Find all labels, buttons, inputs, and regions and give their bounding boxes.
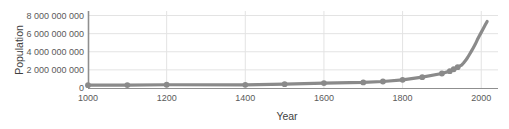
data-point-marker [360,80,366,86]
data-point-marker [164,82,170,88]
x-tick-label: 1800 [393,93,413,103]
x-tick-label: 2000 [471,93,491,103]
y-tick-label: 2 000 000 000 [26,65,84,75]
x-tick-label: 1400 [235,93,255,103]
data-point-marker [124,82,130,88]
data-point-marker [400,77,406,83]
y-tick-label: 4 000 000 000 [26,47,84,57]
y-tick-label: 0 [79,83,84,93]
y-axis-title: Population [13,25,25,75]
x-tick-label: 1000 [78,93,98,103]
x-axis-tick-labels: 100012001400160018002000 [78,93,491,103]
data-point-marker [419,74,425,80]
data-point-marker [242,82,248,88]
y-axis-tick-labels: 02 000 000 0004 000 000 0006 000 000 000… [26,11,84,93]
y-tick-label: 6 000 000 000 [26,29,84,39]
data-point-marker [85,82,91,88]
data-point-marker [455,64,461,70]
data-point-marker [282,81,288,87]
data-point-marker [321,80,327,86]
x-tick-label: 1200 [157,93,177,103]
chart-canvas: 02 000 000 0004 000 000 0006 000 000 000… [0,0,509,129]
y-tick-label: 8 000 000 000 [26,11,84,21]
x-axis-title: Year [276,110,298,122]
data-point-marker [439,71,445,77]
data-point-marker [380,79,386,85]
population-line-chart: 02 000 000 0004 000 000 0006 000 000 000… [0,0,509,129]
x-tick-label: 1600 [314,93,334,103]
